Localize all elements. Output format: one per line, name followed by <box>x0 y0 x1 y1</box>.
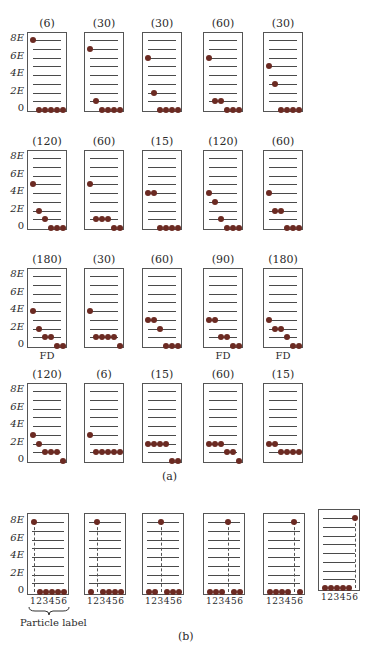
microstate-box <box>142 383 182 463</box>
microstate-box <box>203 150 243 230</box>
microstate-count: (60) <box>74 135 134 148</box>
microstate-box <box>203 268 243 348</box>
energy-level-line <box>269 276 297 277</box>
energy-level-line <box>89 566 121 567</box>
microstate-count: (6) <box>17 17 77 30</box>
microstate-count: (15) <box>132 368 192 381</box>
energy-level-line <box>269 435 297 436</box>
energy-level-line <box>148 202 176 203</box>
energy-level-line <box>268 531 300 532</box>
particle-dot <box>88 589 94 595</box>
y-axis-label: 0 <box>2 584 24 595</box>
energy-level-line <box>90 417 118 418</box>
energy-level-line <box>90 409 118 410</box>
energy-level-line <box>208 548 240 549</box>
y-axis-label: 4E <box>2 303 24 314</box>
particle-label-box <box>142 513 184 595</box>
particle-dot <box>212 317 218 323</box>
energy-level-line <box>89 548 121 549</box>
energy-level-line <box>90 49 118 50</box>
fd-label: FD <box>27 350 67 361</box>
particle-dot <box>60 225 66 231</box>
energy-level-line <box>148 400 176 401</box>
energy-level-line <box>148 276 176 277</box>
microstate-box <box>27 150 67 230</box>
energy-level-line <box>148 409 176 410</box>
particle-dot <box>60 458 66 464</box>
particle-label: Particle label <box>20 617 87 628</box>
energy-level-line <box>209 302 237 303</box>
energy-level-line <box>209 435 237 436</box>
energy-level-line <box>209 66 237 67</box>
energy-level-line <box>90 444 118 445</box>
energy-level-line <box>209 211 237 212</box>
particle-dot <box>206 55 212 61</box>
energy-level-line <box>209 311 237 312</box>
energy-level-line <box>33 320 61 321</box>
particle-dot <box>236 225 242 231</box>
energy-level-line <box>32 557 64 558</box>
energy-level-line <box>268 575 300 576</box>
energy-level-line <box>148 426 176 427</box>
particle-dot <box>285 589 291 595</box>
particle-dot <box>352 515 358 521</box>
energy-level-line <box>268 583 300 584</box>
particle-dot <box>296 343 302 349</box>
energy-level-line <box>33 167 61 168</box>
microstate-count: (90) <box>193 253 253 266</box>
particle-dot <box>296 107 302 113</box>
dashed-guide <box>228 522 229 592</box>
microstate-count: (120) <box>193 135 253 148</box>
energy-level-line <box>90 167 118 168</box>
energy-level-line <box>33 40 61 41</box>
particle-label-box <box>263 513 305 595</box>
microstate-count: (60) <box>193 368 253 381</box>
energy-level-line <box>148 285 176 286</box>
microstate-box <box>27 383 67 463</box>
particle-dot <box>266 63 272 69</box>
energy-level-line <box>268 566 300 567</box>
energy-level-line <box>147 575 179 576</box>
energy-level-line <box>209 193 237 194</box>
energy-level-line <box>269 167 297 168</box>
particle-dot <box>212 199 218 205</box>
energy-level-line <box>269 426 297 427</box>
energy-level-line <box>147 540 179 541</box>
energy-level-line <box>208 566 240 567</box>
energy-level-line <box>33 176 61 177</box>
caption-b: (b) <box>178 630 194 643</box>
energy-level-line <box>269 400 297 401</box>
energy-level-line <box>209 93 237 94</box>
energy-level-line <box>269 176 297 177</box>
energy-level-line <box>90 285 118 286</box>
energy-level-line <box>33 426 61 427</box>
energy-level-line <box>209 329 237 330</box>
energy-level-line <box>209 184 237 185</box>
microstate-count: (15) <box>253 368 313 381</box>
energy-level-line <box>33 285 61 286</box>
energy-level-line <box>148 452 176 453</box>
particle-dot <box>266 190 272 196</box>
energy-level-line <box>208 531 240 532</box>
particle-dot <box>175 343 181 349</box>
particle-dot <box>218 98 224 104</box>
energy-level-line <box>148 337 176 338</box>
energy-level-line <box>208 583 240 584</box>
particle-dot <box>266 317 272 323</box>
energy-level-line <box>89 583 121 584</box>
particle-label-box <box>318 509 360 591</box>
particle-label-box <box>84 513 126 595</box>
energy-level-line <box>90 40 118 41</box>
energy-level-line <box>209 417 237 418</box>
particle-dot <box>117 225 123 231</box>
y-axis-label: 4E <box>2 185 24 196</box>
particle-dot <box>224 334 230 340</box>
particle-dot <box>175 225 181 231</box>
microstate-count: (120) <box>17 135 77 148</box>
dashed-guide <box>34 522 35 592</box>
energy-level-line <box>33 391 61 392</box>
energy-level-line <box>209 426 237 427</box>
energy-level-line <box>269 294 297 295</box>
caption-a: (a) <box>162 470 177 483</box>
energy-level-line <box>90 276 118 277</box>
